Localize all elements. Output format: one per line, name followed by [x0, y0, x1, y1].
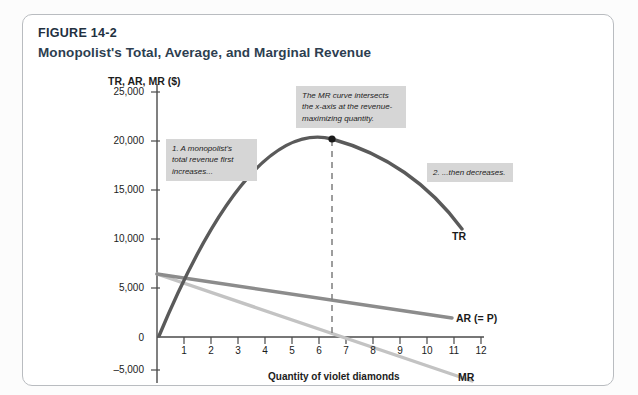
x-tick-label-8: 8 [363, 345, 383, 356]
tr-curve-label: TR [452, 230, 466, 242]
x-tick-label-2: 2 [201, 345, 221, 356]
x-tick-label-1: 1 [174, 345, 194, 356]
y-tick-label-5000: 5,000 [88, 282, 144, 293]
x-axis-title: Quantity of violet diamonds [268, 371, 400, 382]
note-then-decreases: 2. ...then decreases. [427, 163, 513, 182]
note-line-3: increases... [172, 166, 252, 177]
note-line-1: 2. ...then decreases. [433, 167, 508, 178]
note-line-3: maximizing quantity. [302, 113, 401, 124]
mr-curve-label: MR [458, 371, 474, 383]
mr-curve [157, 274, 472, 381]
y-tick-marks [151, 92, 160, 370]
x-tick-label-4: 4 [255, 345, 275, 356]
x-tick-label-3: 3 [228, 345, 248, 356]
ar-curve [157, 274, 452, 318]
y-tick-label-15000: 15,000 [88, 184, 144, 195]
y-tick-label-minus5000: –5,000 [80, 364, 144, 375]
note-total-revenue-increases: 1. A monopolist's total revenue first in… [166, 139, 257, 181]
note-line-1: The MR curve intersects [302, 90, 401, 101]
note-line-2: total revenue first [172, 154, 252, 165]
note-line-2: the x-axis at the revenue- [302, 101, 401, 112]
x-tick-label-7: 7 [336, 345, 356, 356]
y-tick-label-0: 0 [88, 332, 144, 343]
note-mr-intersects-x-axis: The MR curve intersects the x-axis at th… [296, 86, 406, 128]
revenue-maximizing-point-marker [328, 135, 335, 142]
page-root: FIGURE 14-2 Monopolist's Total, Average,… [0, 0, 638, 395]
x-tick-label-10: 10 [417, 345, 437, 356]
y-tick-label-25000: 25,000 [88, 86, 144, 97]
x-tick-label-9: 9 [390, 345, 410, 356]
x-tick-label-5: 5 [282, 345, 302, 356]
ar-curve-label: AR (= P) [456, 312, 497, 324]
y-tick-label-10000: 10,000 [88, 233, 144, 244]
x-tick-marks [184, 337, 481, 344]
chart-area: TR, AR, MR ($) Quantity of violet diamon… [0, 0, 638, 395]
x-tick-label-6: 6 [309, 345, 329, 356]
x-tick-label-12: 12 [471, 345, 491, 356]
x-tick-label-11: 11 [444, 345, 464, 356]
note-line-1: 1. A monopolist's [172, 143, 252, 154]
y-tick-label-20000: 20,000 [88, 135, 144, 146]
